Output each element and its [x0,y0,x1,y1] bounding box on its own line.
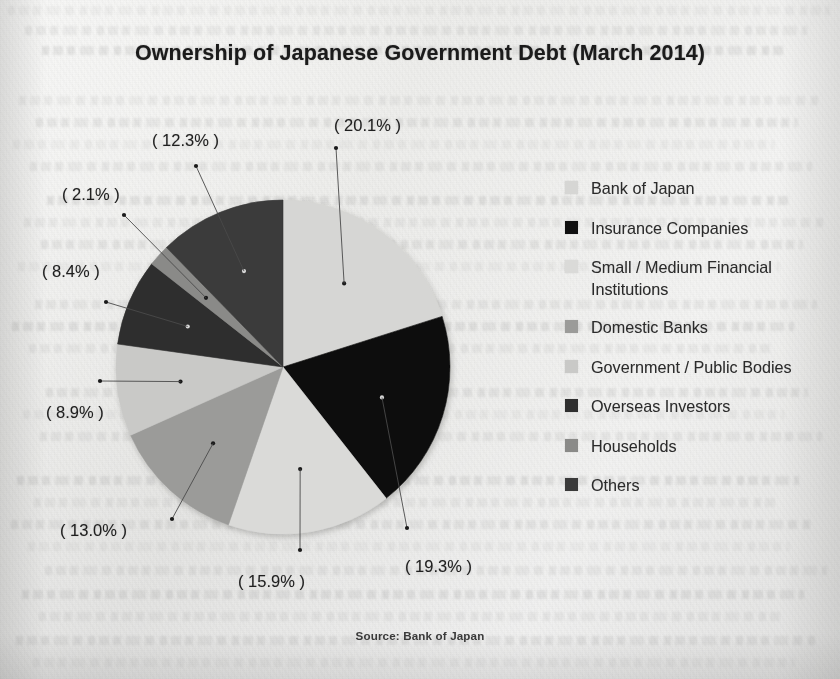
legend-item-label: Domestic Banks [591,317,708,339]
pie-leader-end-dot [170,517,174,521]
legend-item-label: Government / Public Bodies [591,357,792,379]
pie-leader-end-dot [334,146,338,150]
legend-swatch [565,260,578,273]
legend-swatch [565,320,578,333]
legend-item-label: Small / Medium Financial Institutions [591,257,835,300]
legend-item[interactable]: Households [565,436,835,458]
legend-item-label: Overseas Investors [591,396,730,418]
pie-leader-end-dot [104,300,108,304]
legend-swatch [565,181,578,194]
legend-item[interactable]: Bank of Japan [565,178,835,200]
pie-plot-area: ( 20.1% )( 19.3% )( 15.9% )( 13.0% )( 8.… [0,0,560,620]
pie-percentage-label: ( 20.1% ) [334,116,401,135]
legend-item[interactable]: Small / Medium Financial Institutions [565,257,835,300]
pie-percentage-label: ( 12.3% ) [152,131,219,150]
legend-swatch [565,478,578,491]
legend-item-label: Others [591,475,640,497]
pie-percentage-label: ( 2.1% ) [62,185,120,204]
legend-swatch [565,221,578,234]
chart-legend: Bank of JapanInsurance CompaniesSmall / … [565,178,835,515]
pie-percentage-label: ( 8.4% ) [42,262,100,281]
pie-chart-figure: Ownership of Japanese Government Debt (M… [0,0,840,679]
pie-leader-end-dot [298,548,302,552]
legend-item[interactable]: Others [565,475,835,497]
pie-leader-line [100,381,180,382]
legend-item-label: Bank of Japan [591,178,695,200]
legend-swatch [565,360,578,373]
legend-item-label: Households [591,436,677,458]
pie-leader-end-dot [405,526,409,530]
legend-item-label: Insurance Companies [591,218,748,240]
pie-percentage-label: ( 13.0% ) [60,521,127,540]
legend-item[interactable]: Overseas Investors [565,396,835,418]
pie-percentage-label: ( 8.9% ) [46,403,104,422]
legend-swatch [565,439,578,452]
pie-percentage-label: ( 19.3% ) [405,557,472,576]
source-note: Source: Bank of Japan [0,629,840,642]
pie-leader-end-dot [98,379,102,383]
legend-item[interactable]: Government / Public Bodies [565,357,835,379]
legend-item[interactable]: Insurance Companies [565,218,835,240]
pie-percentage-label: ( 15.9% ) [238,572,305,591]
pie-slices-group [116,200,450,534]
legend-swatch [565,399,578,412]
pie-leader-end-dot [122,213,126,217]
legend-item[interactable]: Domestic Banks [565,317,835,339]
pie-leader-end-dot [194,164,198,168]
